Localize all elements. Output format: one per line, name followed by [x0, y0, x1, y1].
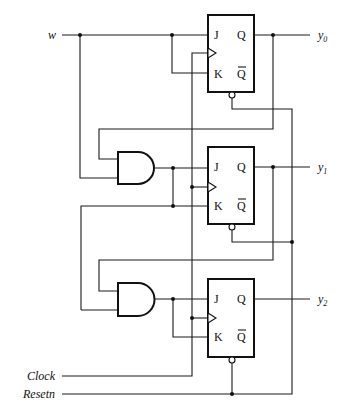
wire-resetn [62, 98, 294, 396]
jk-flip-flop-1: J K Q Q [208, 147, 254, 230]
junction-dot [171, 204, 175, 208]
output-label-y0: y0 [317, 28, 327, 44]
output-label-y1: y1 [317, 160, 327, 176]
reset-bubble-icon [229, 357, 235, 363]
pin-j: J [214, 160, 219, 174]
pin-k: K [214, 330, 223, 344]
junction-dot [171, 297, 175, 301]
input-label-resetn: Resetn [22, 387, 55, 401]
and-gate-1 [118, 152, 154, 184]
junction-dot [271, 33, 275, 37]
pin-j: J [214, 292, 219, 306]
reset-bubble-icon [229, 92, 235, 98]
wire-y0 [99, 33, 310, 159]
junction-dot [171, 166, 175, 170]
reset-bubble-icon [229, 224, 235, 230]
circuit-diagram: w Clock Resetn J K Q Q y0 [0, 0, 349, 416]
jk-flip-flop-2: J K Q Q [208, 279, 254, 363]
junction-dot [190, 185, 194, 189]
junction-dot [190, 316, 194, 320]
pin-qbar: Q [237, 199, 246, 213]
junction-dot [290, 240, 294, 244]
junction-dot [170, 33, 174, 37]
junction-dot [230, 392, 234, 396]
input-label-clock: Clock [27, 369, 56, 383]
junction-dot [78, 33, 82, 37]
pin-k: K [214, 67, 223, 81]
input-label-w: w [48, 28, 56, 42]
and-gate-2 [118, 283, 155, 316]
wire-clock [62, 53, 208, 376]
pin-qbar: Q [237, 330, 246, 344]
pin-q: Q [237, 28, 246, 42]
pin-q: Q [237, 292, 246, 306]
output-label-y2: y2 [317, 292, 327, 308]
pin-k: K [214, 199, 223, 213]
pin-qbar: Q [237, 67, 246, 81]
junction-dot [271, 165, 275, 169]
pin-q: Q [237, 160, 246, 174]
pin-j: J [214, 28, 219, 42]
jk-flip-flop-0: J K Q Q [208, 15, 254, 98]
wire-and2-out [154, 297, 208, 337]
